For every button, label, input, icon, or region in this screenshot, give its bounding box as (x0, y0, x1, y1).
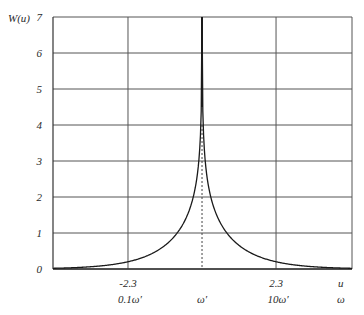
x-tick-label-u: -2.3 (119, 277, 137, 289)
y-tick-label: 5 (37, 83, 43, 95)
y-tick-label: 1 (37, 227, 43, 239)
x-tick-label-u: 2.3 (269, 277, 283, 289)
x-tick-label-omega: 0.1ω′ (118, 293, 143, 305)
y-tick-label: 0 (37, 263, 43, 275)
y-tick-label: 6 (37, 47, 43, 59)
x-axis-label-u: u (338, 277, 344, 289)
y-tick-label: 7 (37, 11, 43, 23)
y-tick-label: 4 (37, 119, 43, 131)
x-tick-labels: -2.30.1ω′ω′2.310ω′ (118, 277, 289, 305)
y-axis-label: W(u) (8, 12, 30, 25)
x-tick-label-omega: ω′ (197, 293, 208, 305)
y-tick-label: 2 (37, 191, 43, 203)
chart: 01234567 -2.30.1ω′ω′2.310ω′ W(u) u ω (0, 0, 364, 315)
x-axis-label-omega: ω (337, 293, 345, 305)
x-tick-label-omega: 10ω′ (267, 293, 289, 305)
y-tick-labels: 01234567 (36, 11, 43, 275)
y-tick-label: 3 (36, 155, 43, 167)
